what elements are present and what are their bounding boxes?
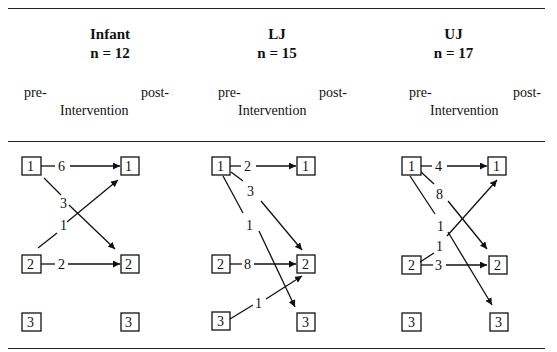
- svg-text:1: 1: [27, 159, 34, 174]
- svg-text:4: 4: [435, 159, 442, 174]
- svg-text:1: 1: [408, 159, 415, 174]
- svg-text:6: 6: [58, 159, 65, 174]
- svg-text:3: 3: [27, 315, 34, 330]
- svg-text:1: 1: [60, 218, 67, 233]
- svg-text:1: 1: [437, 219, 444, 234]
- svg-text:3: 3: [125, 315, 132, 330]
- svg-text:2: 2: [494, 258, 501, 273]
- svg-text:2: 2: [302, 257, 309, 272]
- svg-text:3: 3: [435, 258, 442, 273]
- svg-text:2: 2: [58, 257, 65, 272]
- uj-diagram: [402, 157, 508, 331]
- lj-diagram: [212, 157, 315, 331]
- svg-text:2: 2: [244, 159, 251, 174]
- svg-text:2: 2: [408, 258, 415, 273]
- svg-text:2: 2: [27, 257, 34, 272]
- svg-text:3: 3: [495, 315, 502, 330]
- svg-text:1: 1: [493, 159, 500, 174]
- svg-text:8: 8: [244, 257, 251, 272]
- transition-diagrams: 11 22 33 11 22 33 11 22 33 6 3 1 2 2 3 1…: [0, 0, 557, 352]
- svg-text:3: 3: [302, 315, 309, 330]
- svg-text:2: 2: [217, 257, 224, 272]
- svg-text:1: 1: [125, 159, 132, 174]
- svg-text:3: 3: [60, 196, 67, 211]
- svg-text:1: 1: [436, 239, 443, 254]
- svg-text:8: 8: [436, 187, 443, 202]
- svg-text:3: 3: [408, 315, 415, 330]
- svg-text:1: 1: [246, 218, 253, 233]
- svg-text:1: 1: [255, 296, 262, 311]
- svg-text:1: 1: [217, 159, 224, 174]
- svg-text:2: 2: [125, 257, 132, 272]
- svg-text:1: 1: [302, 159, 309, 174]
- svg-text:3: 3: [247, 184, 254, 199]
- infant-diagram: [22, 157, 139, 331]
- node-labels: 11 22 33 11 22 33 11 22 33: [27, 159, 502, 330]
- svg-text:3: 3: [217, 314, 224, 329]
